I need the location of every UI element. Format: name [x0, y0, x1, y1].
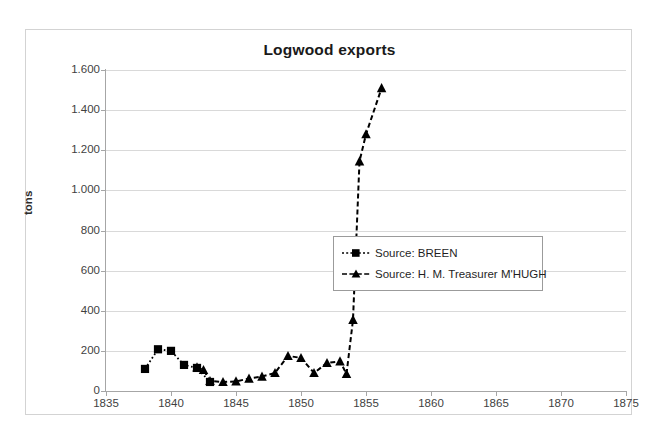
- chart-title: Logwood exports: [26, 41, 633, 59]
- x-axis-tick-labels: 183518401845185018551860186518701875: [106, 397, 655, 415]
- x-tick-label: 1840: [141, 397, 201, 409]
- y-axis-tick-labels: 02004006008001.0001.2001.4001.600: [26, 70, 100, 391]
- square-dotted-key-icon: [341, 246, 371, 260]
- x-tick-label: 1850: [271, 397, 331, 409]
- x-tick-label: 1875: [596, 397, 655, 409]
- x-tick-label: 1860: [401, 397, 461, 409]
- y-tick-label: 1.400: [54, 103, 100, 115]
- y-tick-label: 800: [54, 224, 100, 236]
- legend-label-breen: Source: BREEN: [371, 247, 457, 259]
- y-tick-label: 400: [54, 304, 100, 316]
- plot-area: [106, 70, 626, 391]
- data-point-triangle: [355, 156, 365, 165]
- data-point-triangle: [348, 315, 358, 324]
- data-point-triangle: [296, 353, 306, 362]
- x-tick-mark: [431, 391, 432, 396]
- legend-item-mhugh[interactable]: Source: H. M. Treasurer M'HUGH: [341, 263, 536, 284]
- series-line-1: [197, 88, 382, 382]
- data-point-square: [141, 365, 149, 373]
- x-tick-mark: [301, 391, 302, 396]
- series-layer: [106, 70, 626, 391]
- x-tick-mark: [171, 391, 172, 396]
- data-point-triangle: [361, 129, 371, 138]
- data-point-square: [154, 345, 162, 353]
- chart-frame: Logwood exports tons 02004006008001.0001…: [25, 29, 632, 415]
- x-tick-label: 1865: [466, 397, 526, 409]
- data-point-triangle: [283, 351, 293, 360]
- data-point-square: [180, 361, 188, 369]
- x-tick-mark: [626, 391, 627, 396]
- y-tick-label: 1.200: [54, 143, 100, 155]
- x-tick-label: 1870: [531, 397, 591, 409]
- x-tick-label: 1855: [336, 397, 396, 409]
- legend-item-breen[interactable]: Source: BREEN: [341, 242, 536, 263]
- data-point-triangle: [377, 83, 387, 92]
- data-point-triangle: [342, 369, 352, 378]
- x-tick-label: 1835: [76, 397, 136, 409]
- x-tick-label: 1845: [206, 397, 266, 409]
- y-tick-label: 1.600: [54, 63, 100, 75]
- y-tick-label: 0: [54, 384, 100, 396]
- x-tick-mark: [366, 391, 367, 396]
- chart-legend: Source: BREEN Source: H. M. Treasurer M'…: [333, 236, 543, 291]
- y-tick-label: 200: [54, 344, 100, 356]
- triangle-dashed-key-icon: [341, 267, 371, 281]
- data-point-triangle: [335, 356, 345, 365]
- data-point-square: [167, 347, 175, 355]
- x-tick-mark: [496, 391, 497, 396]
- x-tick-mark: [106, 391, 107, 396]
- y-tick-label: 600: [54, 264, 100, 276]
- y-tick-label: 1.000: [54, 183, 100, 195]
- data-point-triangle: [244, 374, 254, 383]
- legend-label-mhugh: Source: H. M. Treasurer M'HUGH: [371, 268, 547, 280]
- x-tick-mark: [236, 391, 237, 396]
- x-tick-mark: [561, 391, 562, 396]
